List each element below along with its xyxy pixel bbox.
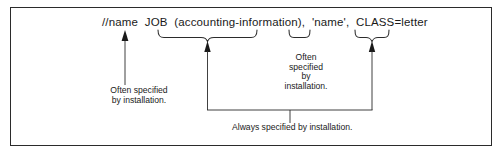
figure-root: //name JOB (accounting-information), 'na… (0, 0, 502, 156)
programmer-name-annotation: Often specified by installation. (270, 53, 342, 91)
jcl-syntax-line: //name JOB (accounting-information), 'na… (102, 15, 428, 29)
jobname-field-annotation: Often specified by installation. (78, 86, 200, 105)
always-specified-annotation: Always specified by installation. (232, 123, 432, 133)
